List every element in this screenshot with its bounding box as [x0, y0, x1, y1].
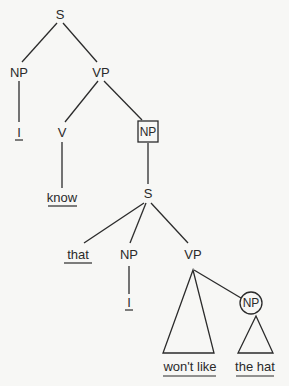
node-np-embedded: NP	[120, 247, 138, 262]
node-s-embedded: S	[144, 186, 153, 201]
edge-vp2-npcircle	[194, 270, 241, 298]
phrase-wont-like: won't like	[162, 359, 216, 374]
edge-vp-npbox	[104, 81, 142, 120]
edge-s-np	[22, 23, 57, 62]
edge-s-vp2	[151, 203, 188, 243]
np-triangle	[238, 316, 273, 353]
word-i-2: I	[127, 295, 131, 310]
node-vp-embedded: VP	[184, 247, 201, 262]
syntax-tree: S NP VP I V NP know S that NP VP I NP wo…	[0, 0, 289, 386]
node-np-boxed: NP	[140, 125, 157, 139]
word-know: know	[47, 190, 78, 205]
edge-s-np2	[130, 203, 146, 243]
node-np-circled: NP	[243, 296, 260, 310]
edge-s-that	[84, 203, 144, 243]
edge-s-vp	[63, 23, 97, 62]
node-s-root: S	[56, 7, 65, 22]
node-vp-main: VP	[92, 65, 109, 80]
edge-vp-v	[65, 81, 98, 122]
word-that: that	[67, 247, 89, 262]
node-np-subject: NP	[10, 65, 28, 80]
vp-triangle	[163, 270, 214, 353]
word-i-1: I	[17, 125, 21, 140]
node-v: V	[58, 125, 67, 140]
phrase-the-hat: the hat	[235, 359, 275, 374]
